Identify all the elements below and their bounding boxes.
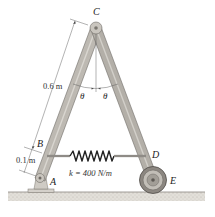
dimension-0-6m: 0.6 m (43, 81, 63, 91)
ground (8, 192, 205, 201)
dimension-0-1m: 0.1 m (16, 155, 36, 165)
label-theta-right: θ (103, 91, 108, 101)
mechanism-diagram: C B A D E θ θ 0.6 m 0.1 m k = 400 N/m (0, 0, 215, 217)
wheel-E (140, 167, 167, 194)
label-A: A (49, 176, 57, 187)
label-D: D (151, 149, 160, 160)
spring-constant-label: k = 400 N/m (69, 168, 112, 178)
spring (47, 151, 146, 161)
label-B: B (37, 138, 43, 149)
pin-C (90, 22, 102, 34)
label-theta-left: θ (80, 91, 85, 101)
label-C: C (93, 6, 100, 17)
pin-A (36, 174, 45, 183)
label-E: E (169, 175, 176, 186)
member-AC (35, 27, 101, 181)
